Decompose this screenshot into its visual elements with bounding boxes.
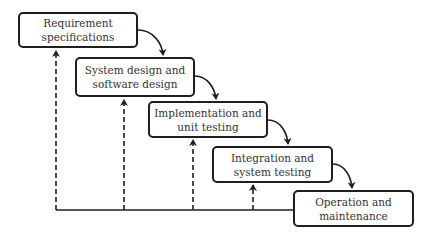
flow-arrow-1 [138,30,163,55]
stage-label: System design and software design [85,63,186,91]
stage-integration: Integration and system testing [212,146,333,183]
flow-arrow-2 [195,76,216,99]
waterfall-diagram: Requirement specifications System design… [0,0,434,242]
flow-arrow-4 [333,164,352,188]
stage-requirement-specifications: Requirement specifications [18,12,138,48]
stage-system-design: System design and software design [75,57,195,97]
stage-label: Implementation and unit testing [154,106,262,134]
stage-label: Requirement specifications [42,16,115,44]
stage-implementation: Implementation and unit testing [148,101,268,138]
flow-arrow-3 [268,120,288,144]
stage-label: Operation and maintenance [315,195,392,223]
stage-label: Integration and system testing [231,151,314,179]
stage-operation-maintenance: Operation and maintenance [293,190,414,227]
